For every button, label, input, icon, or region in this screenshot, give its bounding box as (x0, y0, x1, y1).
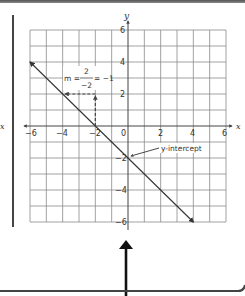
x-tick-label: 6 (222, 129, 227, 138)
slope-numerator: 2 (84, 67, 89, 76)
y-intercept-pointer (131, 148, 159, 156)
y-tick-label: −4 (115, 186, 127, 195)
x-tick-label: 4 (190, 129, 195, 138)
y-tick-label: −6 (115, 218, 127, 227)
pointer-arrow-head (119, 240, 133, 249)
y-tick-label: 4 (120, 58, 125, 67)
bottom-frame-bar (0, 285, 245, 291)
y-intercept-label: y-intercept (161, 144, 202, 153)
x-tick-label: 0 (121, 129, 126, 138)
y-axis-label: y (123, 11, 130, 21)
slope-denominator: −2 (81, 81, 92, 90)
y-tick-label: 6 (120, 26, 125, 35)
x-tick-label: −6 (25, 129, 37, 138)
slope-prefix: m = (64, 74, 80, 83)
coordinate-plane-diagram: y x x −6 −4 −2 0 2 4 6 6 4 2 −2 −4 −6 m … (0, 0, 245, 296)
x-axis-label: x (236, 122, 241, 131)
x-tick-label: 2 (158, 129, 163, 138)
slope-result: = −1 (94, 74, 114, 83)
x-tick-label: −4 (56, 129, 68, 138)
outer-x-label: x (0, 122, 5, 131)
y-tick-label: 2 (120, 90, 125, 99)
